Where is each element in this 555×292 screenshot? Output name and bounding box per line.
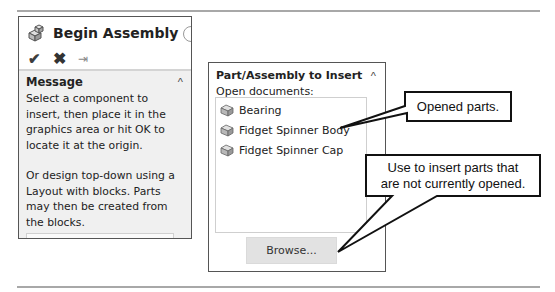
list-item-fidget-spinner-cap[interactable]: Fidget Spinner Cap [216, 140, 366, 160]
title-row: Begin Assembly [27, 24, 178, 42]
message-section: Message ^ Select a component to insert, … [19, 71, 191, 239]
document-name: Fidget Spinner Cap [239, 144, 343, 157]
insert-section-header[interactable]: Part/Assembly to Insert ^ [216, 69, 376, 82]
checkmark-icon[interactable]: ✔ [28, 51, 41, 67]
message-paragraph-2: Or design top-down using a Layout with b… [26, 168, 185, 230]
document-name: Bearing [239, 104, 282, 117]
callout-opened-parts-text: Opened parts. [405, 99, 511, 114]
panel-title: Begin Assembly [53, 25, 178, 41]
insert-section-title: Part/Assembly to Insert [216, 69, 362, 82]
open-documents-list[interactable]: Bearing Fidget Spinner Body Fidget Spinn… [215, 97, 367, 233]
message-header[interactable]: Message ^ [19, 71, 191, 90]
bottom-divider [17, 286, 540, 288]
close-icon[interactable]: ✖ [53, 51, 66, 67]
chevron-up-icon[interactable]: ^ [371, 70, 376, 82]
part-icon [220, 103, 234, 117]
browse-button[interactable]: Browse... [246, 237, 337, 264]
list-item-fidget-spinner-body[interactable]: Fidget Spinner Body [216, 120, 366, 140]
help-icon[interactable] [183, 26, 192, 42]
part-icon [220, 123, 234, 137]
list-item-bearing[interactable]: Bearing [216, 100, 366, 120]
document-name: Fidget Spinner Body [239, 124, 350, 137]
create-layout-button[interactable]: Create Layout [26, 233, 174, 239]
message-paragraph-1: Select a component to insert, then place… [26, 91, 185, 153]
action-row: ✔ ✖ ⇥ [28, 51, 88, 67]
begin-assembly-panel: Begin Assembly ✔ ✖ ⇥ Message ^ Select a … [18, 16, 192, 239]
callout-browse-text-line1: Use to insert parts that [366, 160, 540, 175]
panel-header: Begin Assembly ✔ ✖ ⇥ [19, 17, 191, 71]
message-title: Message [26, 75, 83, 89]
chevron-up-icon[interactable]: ^ [178, 76, 183, 88]
assembly-icon [27, 24, 45, 42]
pushpin-icon[interactable]: ⇥ [78, 51, 88, 67]
callout-browse-text-line2: are not currently opened. [366, 176, 540, 191]
top-divider [17, 10, 540, 12]
message-body: Select a component to insert, then place… [19, 90, 191, 230]
part-icon [220, 143, 234, 157]
part-assembly-to-insert-panel: Part/Assembly to Insert ^ Open documents… [208, 62, 386, 272]
